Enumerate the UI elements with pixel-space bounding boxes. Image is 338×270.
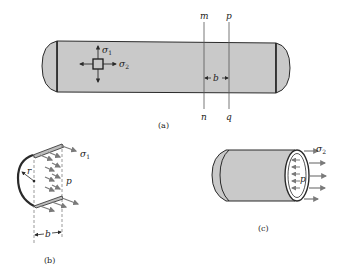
label-n: n	[201, 112, 207, 122]
caption-c: (c)	[258, 224, 269, 233]
label-q: q	[226, 112, 232, 122]
label-m: m	[200, 11, 209, 21]
cylindrical-tank	[42, 41, 290, 93]
pressure-vessel-diagram: σ1 σ2 m p n q b (a) r	[0, 0, 338, 270]
sigma2-label-c: σ2	[316, 144, 326, 155]
label-p: p	[226, 11, 232, 21]
pressure-label-b: p	[66, 176, 72, 186]
sigma1-arrows	[40, 146, 78, 211]
panel-c: σ2 p (c)	[212, 144, 326, 233]
panel-a: σ1 σ2 m p n q b (a)	[42, 11, 290, 130]
radius-label: r	[27, 166, 32, 176]
pressure-label-c: p	[300, 174, 306, 184]
caption-b: (b)	[44, 256, 55, 265]
spacing-b-label: b	[213, 73, 219, 83]
pressure-arrows	[45, 163, 60, 191]
width-b-label: b	[45, 229, 51, 239]
sigma1-label-b: σ1	[80, 149, 90, 160]
panel-b: r σ1 p b (b)	[18, 144, 90, 265]
caption-a: (a)	[158, 121, 169, 130]
